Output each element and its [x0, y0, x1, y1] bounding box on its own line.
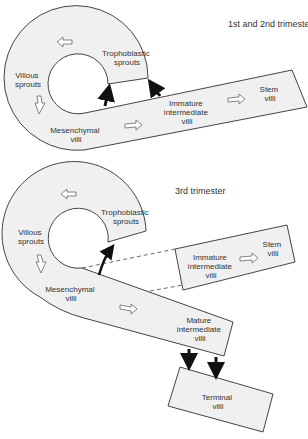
top-black-arrow-2-icon [153, 86, 160, 96]
bottom-title: 3rd trimester [175, 186, 226, 196]
dashed-connector-lower [150, 285, 183, 291]
bottom-diagram: 3rd trimester Trophoblastic sprouts Vill… [2, 162, 295, 432]
top-black-arrow-1-icon [105, 92, 108, 106]
top-villous-label: Villous sprouts [15, 71, 41, 89]
bottom-curved-black-arrow-icon [99, 250, 110, 275]
dashed-connector-upper [82, 249, 175, 268]
top-diagram: 1st and 2nd trimester Trophoblastic spro… [4, 6, 308, 151]
top-title: 1st and 2nd trimester [228, 19, 308, 29]
villous-development-diagram: 1st and 2nd trimester Trophoblastic spro… [0, 0, 308, 439]
bottom-villous-label: Villous sprouts [18, 228, 44, 246]
